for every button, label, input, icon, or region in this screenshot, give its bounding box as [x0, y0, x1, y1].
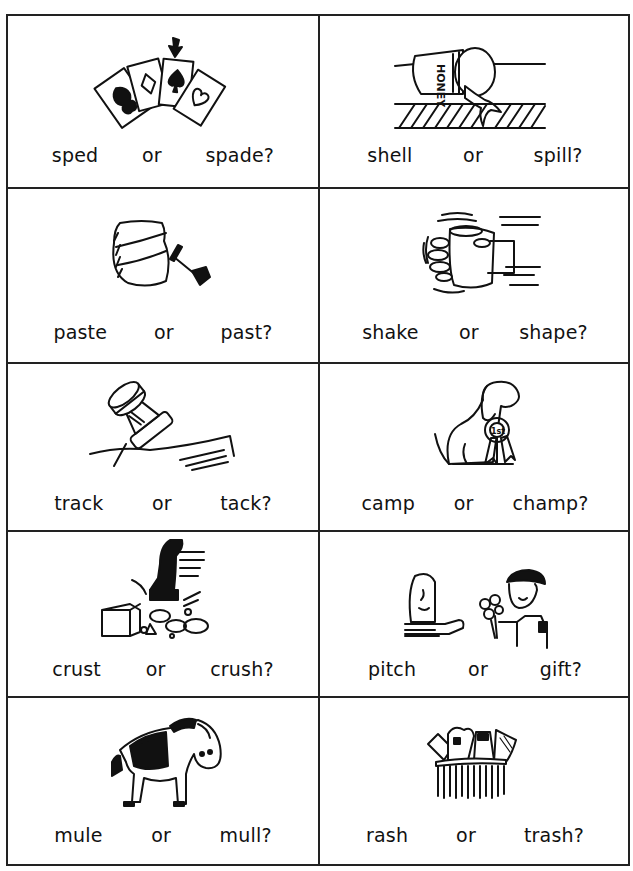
gift-flowers-icon — [395, 568, 555, 648]
cell-crush: crust or crush? — [8, 532, 318, 696]
choice-a[interactable]: rash — [366, 824, 408, 846]
mule-icon — [98, 714, 228, 814]
word-choices: shell or spill? — [320, 144, 630, 166]
cell-shake: shake or shape? — [320, 189, 630, 362]
choice-b[interactable]: trash? — [524, 824, 584, 846]
connector: or — [152, 492, 172, 514]
choice-b[interactable]: crush? — [210, 658, 274, 680]
honey-jar-icon: HONEY — [395, 46, 555, 136]
choice-b[interactable]: tack? — [220, 492, 272, 514]
choice-b[interactable]: champ? — [513, 492, 589, 514]
cell-gift: pitch or gift? — [320, 532, 630, 696]
choice-b[interactable]: spade? — [206, 144, 275, 166]
connector: or — [142, 144, 162, 166]
word-choices: crust or crush? — [8, 658, 318, 680]
word-choices: rash or trash? — [320, 824, 630, 846]
choice-a[interactable]: pitch — [368, 658, 416, 680]
word-choices: mule or mull? — [8, 824, 318, 846]
thumbtack-icon — [88, 374, 238, 474]
connector: or — [154, 321, 174, 343]
word-choices: shake or shape? — [320, 321, 630, 343]
choice-b[interactable]: gift? — [540, 658, 582, 680]
cell-paste: paste or past? — [8, 189, 318, 362]
choice-a[interactable]: crust — [52, 658, 101, 680]
word-choices: pitch or gift? — [320, 658, 630, 680]
connector: or — [151, 824, 171, 846]
dog-with-ribbon-icon: 1st — [425, 372, 525, 468]
choice-a[interactable]: shell — [367, 144, 412, 166]
choice-a[interactable]: mule — [54, 824, 102, 846]
choice-b[interactable]: past? — [220, 321, 272, 343]
connector: or — [456, 824, 476, 846]
choice-b[interactable]: shape? — [519, 321, 588, 343]
connector: or — [459, 321, 479, 343]
connector: or — [468, 658, 488, 680]
cell-honey: HONEY shell or spill? — [320, 16, 630, 187]
choice-a[interactable]: sped — [52, 144, 99, 166]
connector: or — [463, 144, 483, 166]
choice-a[interactable]: track — [54, 492, 103, 514]
word-choices: track or tack? — [8, 492, 318, 514]
cell-champ: 1st camp or champ? — [320, 364, 630, 530]
word-choices: paste or past? — [8, 321, 318, 343]
paste-jar-icon — [108, 213, 218, 293]
cell-mule: mule or mull? — [8, 698, 318, 866]
cell-cards: sped or spade? — [8, 16, 318, 187]
choice-a[interactable]: camp — [361, 492, 414, 514]
connector: or — [146, 658, 166, 680]
choice-b[interactable]: spill? — [534, 144, 583, 166]
word-choices: sped or spade? — [8, 144, 318, 166]
word-choices: camp or champ? — [320, 492, 630, 514]
jar-label: HONEY — [434, 64, 447, 108]
choice-a[interactable]: paste — [53, 321, 107, 343]
worksheet-grid: sped or spade? HONEY shell or spill? — [6, 14, 630, 866]
playing-cards-icon — [93, 36, 233, 136]
cell-trash: rash or trash? — [320, 698, 630, 866]
ribbon-label: 1st — [491, 427, 505, 436]
connector: or — [454, 492, 474, 514]
trash-can-icon — [420, 722, 530, 802]
shaking-hand-icon — [420, 207, 530, 297]
choice-a[interactable]: shake — [362, 321, 419, 343]
cell-tack: track or tack? — [8, 364, 318, 530]
choice-b[interactable]: mull? — [220, 824, 272, 846]
hammer-rocks-icon — [98, 536, 228, 636]
